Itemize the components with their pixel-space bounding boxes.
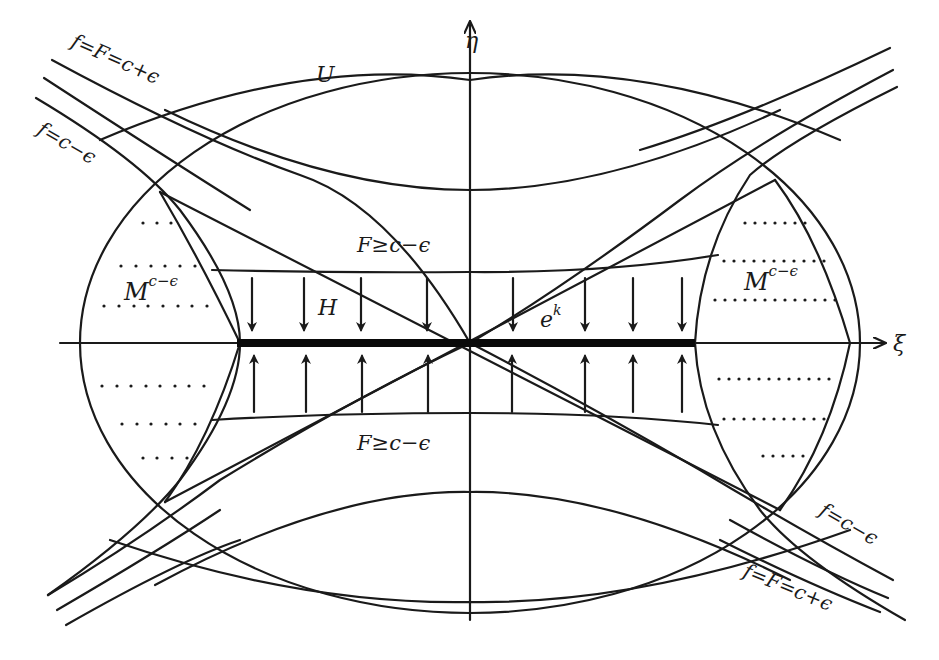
downward-arrows (252, 278, 682, 330)
upper-lens-bottom-curve (165, 110, 780, 190)
label-top-left-inner: f=c−ϵ (32, 116, 101, 169)
left-region-dots (100, 221, 208, 459)
label-f-upper: F≥c−ϵ (356, 233, 431, 257)
lower-lens-top-curve (155, 492, 790, 585)
lower-lens-bottom-curve (110, 530, 850, 602)
hyperbola-upper-left-inner (36, 98, 240, 595)
hyperbola-lower-left-a (48, 343, 470, 595)
label-m-right: Mc−ϵ (743, 262, 799, 296)
left-region-boundary-top (160, 192, 240, 343)
label-h: H (317, 295, 338, 320)
hyperbola-upper-right-outer (640, 48, 890, 150)
label-f-lower: F≥c−ϵ (356, 431, 431, 455)
morse-deformation-diagram: η ξ U H ek F≥c−ϵ F≥c−ϵ Mc−ϵ Mc−ϵ f=F=c+ϵ… (0, 0, 939, 660)
upward-arrows (254, 356, 682, 412)
eta-axis-label: η (465, 28, 478, 53)
label-m-left: Mc−ϵ (123, 272, 179, 306)
label-top-left-outer: f=F=c+ϵ (66, 28, 163, 89)
right-region-boundary-bottom (780, 343, 850, 510)
label-u: U (316, 62, 336, 87)
xi-axis-label: ξ (893, 331, 907, 356)
hyperbola-lower-left-b (57, 510, 220, 610)
hyperbola-upper-left-outer (52, 60, 470, 343)
band-h-bottom-boundary (212, 413, 718, 425)
left-region-boundary-bottom (165, 343, 240, 502)
label-ek: ek (540, 302, 562, 332)
